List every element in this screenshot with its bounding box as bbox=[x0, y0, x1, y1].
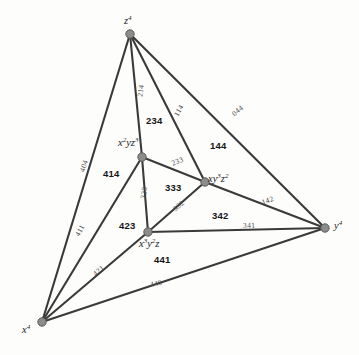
edge-label-341: 341 bbox=[243, 222, 255, 230]
e-x3y2z-y4 bbox=[148, 228, 325, 232]
e-x2yz3-x4 bbox=[42, 157, 142, 322]
vertex-label-x4: x4 bbox=[22, 325, 30, 336]
vertex-label-x3y2z: x3y2z bbox=[139, 239, 159, 250]
vertex-node-z4 bbox=[126, 30, 134, 38]
vertex-node-x4 bbox=[38, 318, 46, 326]
edge-label-214: 214 bbox=[136, 84, 145, 97]
vertex-label-x2yz3: x2yz3 bbox=[118, 138, 138, 149]
e-z4-y4 bbox=[130, 34, 325, 228]
face-label-333: 333 bbox=[165, 183, 181, 193]
edges-group bbox=[42, 34, 325, 322]
vertex-label-xy3z2: xy3z2 bbox=[208, 174, 228, 185]
vertex-node-x2yz3 bbox=[138, 153, 146, 161]
face-label-144: 144 bbox=[210, 141, 226, 151]
edge-label-440: 440 bbox=[149, 279, 162, 289]
diagram-canvas: z4x2yz3xy3z2x3y2zy4x42341444143333424234… bbox=[0, 0, 359, 355]
face-label-423: 423 bbox=[119, 221, 135, 231]
edge-label-323: 323 bbox=[139, 186, 148, 199]
vertex-label-y4: y4 bbox=[334, 221, 342, 232]
face-label-441: 441 bbox=[154, 255, 170, 265]
nodes-group bbox=[38, 30, 329, 326]
face-label-414: 414 bbox=[103, 169, 119, 179]
vertex-node-y4 bbox=[321, 224, 329, 232]
vertex-node-x3y2z bbox=[144, 228, 152, 236]
e-x4-y4 bbox=[42, 228, 325, 322]
face-label-342: 342 bbox=[212, 211, 228, 221]
graph-svg bbox=[0, 0, 359, 355]
face-label-234: 234 bbox=[146, 116, 162, 126]
vertex-label-z4: z4 bbox=[124, 16, 132, 27]
